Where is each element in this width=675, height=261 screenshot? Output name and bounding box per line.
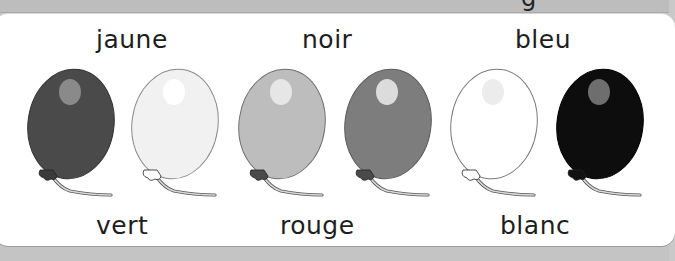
balloon-knot bbox=[356, 170, 374, 180]
balloon-2 bbox=[130, 66, 230, 212]
balloon-highlight bbox=[588, 79, 610, 105]
word-bleu: bleu bbox=[515, 25, 571, 54]
balloon-string bbox=[156, 176, 215, 195]
balloon-6 bbox=[555, 66, 655, 212]
balloon-5 bbox=[449, 66, 549, 212]
top-strip: g bbox=[0, 0, 669, 13]
balloon-highlight bbox=[482, 79, 504, 105]
word-vert: vert bbox=[96, 211, 148, 240]
balloon-string bbox=[475, 176, 534, 195]
balloon-string bbox=[263, 176, 322, 195]
balloon-knot bbox=[39, 170, 57, 180]
balloon-knot bbox=[462, 170, 480, 180]
balloon-highlight bbox=[59, 79, 81, 105]
word-noir: noir bbox=[302, 25, 352, 54]
balloon-1 bbox=[26, 66, 126, 212]
balloon-highlight bbox=[270, 79, 292, 105]
balloon-highlight bbox=[163, 79, 185, 105]
balloon-string bbox=[369, 176, 428, 195]
balloon-string bbox=[52, 176, 111, 195]
balloon-3 bbox=[237, 66, 337, 212]
cut-off-heading-glyph: g bbox=[521, 0, 536, 10]
balloon-knot bbox=[250, 170, 268, 180]
bottom-strip bbox=[0, 246, 669, 261]
balloon-knot bbox=[568, 170, 586, 180]
balloon-highlight bbox=[376, 79, 398, 105]
word-blanc: blanc bbox=[500, 211, 570, 240]
balloon-knot bbox=[143, 170, 161, 180]
word-rouge: rouge bbox=[280, 211, 355, 240]
word-jaune: jaune bbox=[96, 25, 168, 54]
balloon-string bbox=[581, 176, 640, 195]
balloon-4 bbox=[343, 66, 443, 212]
